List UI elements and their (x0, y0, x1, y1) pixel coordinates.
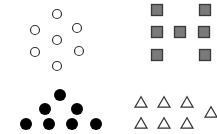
black-dot (66, 118, 78, 130)
open-triangle (158, 118, 170, 128)
gray-square (152, 5, 163, 16)
black-dots-group (20, 89, 102, 130)
open-circle (53, 10, 62, 19)
black-dot (71, 103, 83, 115)
gray-square (199, 27, 210, 38)
open-circle (31, 26, 40, 35)
open-triangle (205, 107, 217, 117)
gray-square (175, 27, 186, 38)
open-triangle (181, 97, 193, 107)
black-dot (54, 89, 66, 101)
black-dot (20, 118, 32, 130)
open-triangle (135, 97, 147, 107)
open-triangle (158, 97, 170, 107)
gray-square (152, 27, 163, 38)
shape-grid-figure (0, 0, 217, 134)
gray-square (152, 50, 163, 61)
open-circle (53, 36, 62, 45)
open-triangle (181, 118, 193, 128)
black-dot (39, 103, 51, 115)
black-dot (43, 118, 55, 130)
open-circle (75, 47, 84, 56)
gray-squares-group (152, 5, 211, 61)
open-circle (53, 62, 62, 71)
open-circles-group (31, 10, 84, 71)
gray-square (200, 50, 211, 61)
open-triangle (135, 118, 147, 128)
gray-square (200, 5, 211, 16)
black-dot (90, 118, 102, 130)
open-triangles-group (135, 97, 217, 128)
open-circle (31, 48, 40, 57)
open-circle (73, 24, 82, 33)
